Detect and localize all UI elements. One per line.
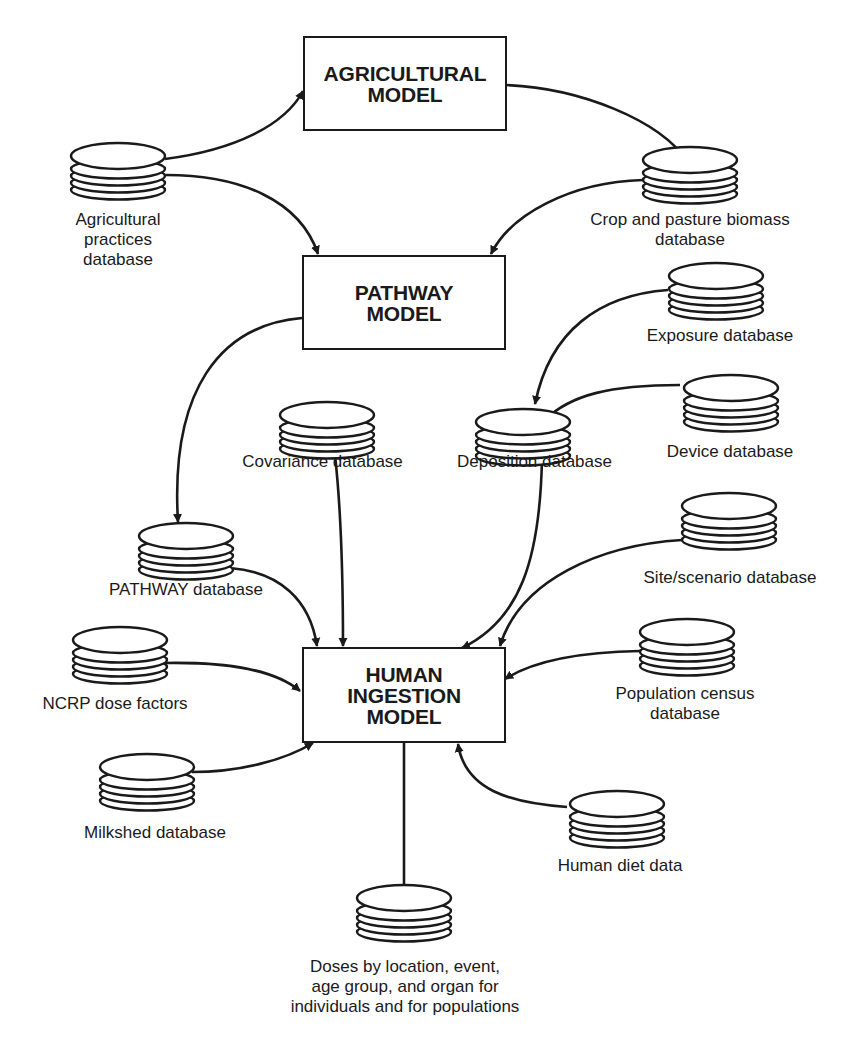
human-diet-data-label: Human diet data	[530, 856, 710, 876]
pathway-model-title: PATHWAY MODEL	[355, 282, 454, 324]
arrow-device-to-deposition	[545, 385, 680, 420]
arrow-agripractices-to-agrimodel	[165, 91, 303, 159]
database-icon	[100, 754, 194, 811]
database-icon	[71, 143, 165, 200]
site-scenario-db-label: Site/scenario database	[620, 568, 840, 588]
database-icon	[643, 147, 737, 204]
ncrp-dose-factors-label: NCRP dose factors	[20, 694, 210, 714]
database-icon	[682, 493, 776, 550]
covariance-db-label: Covariance database	[210, 452, 435, 472]
device-db-label: Device database	[640, 442, 820, 462]
agricultural-model-box: AGRICULTURAL MODEL	[303, 36, 507, 131]
diagram-canvas	[0, 0, 867, 1048]
deposition-db-label: Deposition database	[432, 452, 637, 472]
database-icon	[640, 619, 734, 676]
crop-pasture-biomass-db-label: Crop and pasture biomass database	[560, 210, 820, 250]
milkshed-db-label: Milkshed database	[60, 823, 250, 843]
arrow-deposition-to-human	[462, 458, 542, 648]
human-ingestion-model-title: HUMAN INGESTION MODEL	[347, 664, 461, 727]
database-icon	[280, 402, 374, 459]
pathway-db-label: PATHWAY database	[86, 580, 286, 600]
exposure-db-label: Exposure database	[620, 326, 820, 346]
database-icon	[139, 523, 233, 580]
arrow-covariance-to-human	[335, 455, 343, 646]
database-icon	[684, 375, 778, 432]
pathway-model-box: PATHWAY MODEL	[302, 255, 506, 350]
agricultural-model-title: AGRICULTURAL MODEL	[324, 63, 487, 105]
database-icon	[669, 263, 763, 320]
database-icon	[73, 627, 167, 684]
database-icon	[357, 885, 451, 942]
agricultural-practices-db-label: Agricultural practices database	[48, 210, 188, 270]
arrow-ncrp-to-human	[165, 663, 300, 691]
arrow-population-to-human	[505, 651, 640, 679]
database-icon	[570, 791, 664, 848]
population-census-db-label: Population census database	[590, 684, 780, 724]
doses-output-label: Doses by location, event, age group, and…	[260, 957, 550, 1017]
arrow-milkshed-to-human	[192, 743, 313, 772]
arrow-agripractices-to-pathway	[166, 175, 318, 254]
arrow-diet-to-human	[458, 744, 567, 807]
connector-arrows	[165, 85, 688, 898]
human-ingestion-model-box: HUMAN INGESTION MODEL	[302, 647, 506, 743]
